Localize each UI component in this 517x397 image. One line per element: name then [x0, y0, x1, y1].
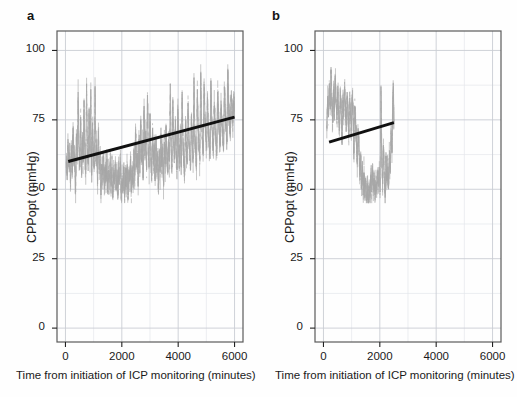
y-tick-label: 0 [273, 320, 303, 332]
figure-container: a CPPopt (mmHg) Time from initiation of … [0, 0, 517, 397]
cppopt-trace [327, 70, 394, 203]
y-tick-label: 0 [15, 320, 45, 332]
y-tick-label: 50 [273, 181, 303, 193]
x-tick-label: 2000 [358, 350, 402, 362]
x-tick-label: 0 [43, 350, 87, 362]
y-tick-label: 75 [15, 112, 45, 124]
panel-b-y-axis-label: CPPopt (mmHg) [283, 151, 297, 243]
panel-b: b CPPopt (mmHg) Time from initiation of … [258, 0, 517, 397]
y-tick-label: 100 [15, 42, 45, 54]
cppopt-trace-detail [327, 67, 394, 203]
minor-gridlines [315, 31, 501, 342]
y-tick-label: 25 [15, 251, 45, 263]
panel-a: a CPPopt (mmHg) Time from initiation of … [0, 0, 258, 397]
y-tick-label: 100 [273, 42, 303, 54]
x-tick-label: 6000 [471, 350, 515, 362]
x-tick-label: 4000 [156, 350, 200, 362]
x-tick-label: 2000 [100, 350, 144, 362]
y-tick-label: 50 [15, 181, 45, 193]
y-tick-label: 75 [273, 112, 303, 124]
x-tick-label: 0 [301, 350, 345, 362]
panel-b-x-axis-label: Time from initiation of ICP monitoring (… [275, 369, 507, 381]
y-tick-label: 25 [273, 251, 303, 263]
panel-a-y-axis-label: CPPopt (mmHg) [25, 151, 39, 243]
x-tick-label: 6000 [213, 350, 257, 362]
x-tick-label: 4000 [414, 350, 458, 362]
panel-a-x-axis-label: Time from initiation of ICP monitoring (… [16, 369, 248, 381]
minor-gridlines [57, 31, 243, 342]
